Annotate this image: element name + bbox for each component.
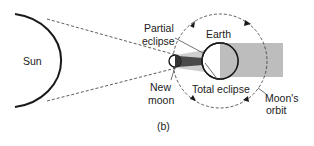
orbit-arrow-bottom-left bbox=[190, 95, 196, 101]
earth-label: Earth bbox=[206, 28, 231, 40]
partial-eclipse-label-line1: Partial bbox=[144, 22, 174, 34]
moons-orbit-label-line2: orbit bbox=[266, 104, 287, 116]
sun-label: Sun bbox=[23, 55, 42, 67]
total-eclipse-label: Total eclipse bbox=[192, 83, 250, 95]
orbit-arrow-top-right bbox=[244, 20, 251, 26]
moons-orbit-label-line1: Moon's bbox=[265, 92, 299, 104]
orbit-arrow-bottom-right bbox=[243, 96, 249, 102]
new-moon-label-line1: New bbox=[150, 81, 171, 93]
orbit-arrow-top-left bbox=[190, 21, 195, 28]
panel-label: (b) bbox=[157, 120, 170, 132]
new-moon-label-line2: moon bbox=[148, 94, 174, 106]
solar-eclipse-diagram: Sun Earth Partial eclipse New moon Total… bbox=[0, 0, 314, 146]
partial-eclipse-label-line2: eclipse bbox=[142, 35, 175, 47]
partial-eclipse-leader bbox=[175, 38, 203, 53]
